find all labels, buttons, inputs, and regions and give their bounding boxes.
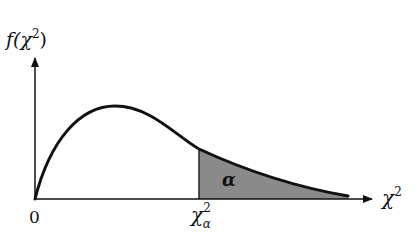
y-axis-label: f(χ2) <box>4 27 47 50</box>
density-curve <box>35 106 348 199</box>
critical-value-label: χ2α <box>189 201 211 231</box>
chi-square-diagram: f(χ2) χ2 0 χ2α α <box>0 0 419 236</box>
origin-label: 0 <box>29 207 40 227</box>
x-axis-label: χ2 <box>380 185 402 210</box>
alpha-label: α <box>222 169 236 190</box>
